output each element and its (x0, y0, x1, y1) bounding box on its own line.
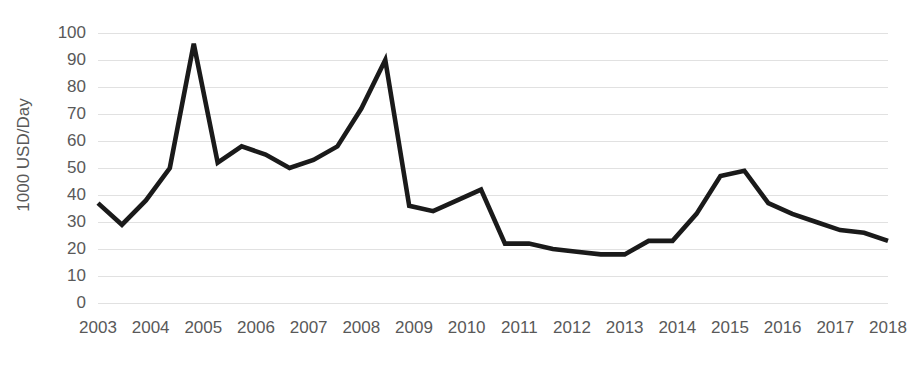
x-tick-label: 2007 (290, 318, 328, 338)
x-tick-label: 2018 (869, 318, 907, 338)
y-tick-label: 90 (67, 50, 86, 70)
y-tick-label: 20 (67, 239, 86, 259)
y-axis-title: 1000 USD/Day (0, 0, 48, 310)
x-tick-label: 2014 (658, 318, 696, 338)
x-axis-tick-labels: 2003200420052006200720082009201020112012… (98, 318, 888, 348)
plot-area (98, 33, 888, 303)
y-tick-label: 40 (67, 185, 86, 205)
x-tick-label: 2006 (237, 318, 275, 338)
x-tick-label: 2003 (79, 318, 117, 338)
y-axis-tick-labels: 1009080706050403020100 (48, 33, 92, 303)
x-tick-label: 2016 (764, 318, 802, 338)
y-tick-label: 60 (67, 131, 86, 151)
x-tick-label: 2005 (184, 318, 222, 338)
series-line (98, 33, 888, 303)
y-tick-label: 30 (67, 212, 86, 232)
x-tick-label: 2011 (501, 318, 538, 338)
gridline (98, 303, 888, 304)
x-tick-label: 2017 (816, 318, 854, 338)
series-polyline (98, 44, 888, 255)
y-tick-label: 10 (67, 266, 86, 286)
y-tick-label: 80 (67, 77, 86, 97)
x-tick-label: 2013 (606, 318, 644, 338)
x-tick-label: 2009 (395, 318, 433, 338)
y-tick-label: 70 (67, 104, 86, 124)
y-tick-label: 100 (58, 23, 86, 43)
y-axis-title-label: 1000 USD/Day (14, 98, 34, 211)
line-chart-figure: 1000 USD/Day 1009080706050403020100 2003… (0, 0, 916, 365)
y-tick-label: 0 (77, 293, 86, 313)
x-tick-label: 2015 (711, 318, 749, 338)
y-tick-label: 50 (67, 158, 86, 178)
x-tick-label: 2012 (553, 318, 591, 338)
x-tick-label: 2008 (342, 318, 380, 338)
x-tick-label: 2004 (132, 318, 170, 338)
x-tick-label: 2010 (448, 318, 486, 338)
